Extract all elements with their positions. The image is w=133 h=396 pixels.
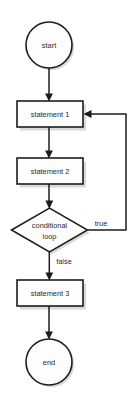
node-start[interactable]: start [26, 22, 72, 68]
edge-label-true: true [95, 219, 108, 228]
node-conditional-loop-label-line-1: conditional [32, 221, 68, 230]
flowchart-canvas: start statement 1 statement 2 conditiona… [0, 0, 133, 396]
node-conditional-loop-label-line-2: loop [43, 232, 57, 241]
flowchart-diagram: start statement 1 statement 2 conditiona… [0, 0, 133, 396]
edge-statement-2-to-conditional-loop [45, 184, 53, 209]
edge-start-to-statement-1 [45, 68, 53, 102]
edge-conditional-loop-true-to-statement-1 [84, 110, 127, 230]
edge-statement-1-to-statement-2 [45, 127, 53, 159]
node-statement-3[interactable]: statement 3 [17, 280, 83, 306]
node-start-label: start [42, 41, 56, 50]
node-end-label: end [43, 358, 55, 367]
node-statement-2[interactable]: statement 2 [17, 158, 83, 184]
node-statement-2-label: statement 2 [31, 167, 70, 176]
node-conditional-loop[interactable]: conditional loop [12, 208, 88, 252]
edge-statement-3-to-end [45, 306, 53, 340]
node-end[interactable]: end [26, 339, 72, 385]
edge-conditional-loop-false-to-statement-3 [45, 252, 53, 281]
edge-label-false: false [56, 257, 72, 266]
node-statement-3-label: statement 3 [31, 289, 70, 298]
node-statement-1[interactable]: statement 1 [17, 101, 83, 127]
node-statement-1-label: statement 1 [31, 110, 70, 119]
edge-conditional-loop-true-to-statement-1-path [88, 114, 126, 230]
